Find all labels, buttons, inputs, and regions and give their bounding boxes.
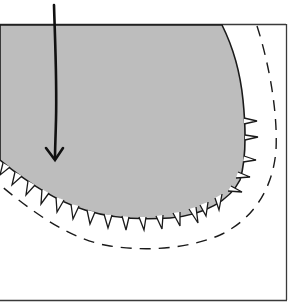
diagram-canvas	[0, 0, 296, 303]
gray-region	[0, 25, 245, 219]
diagram-svg	[0, 0, 296, 303]
